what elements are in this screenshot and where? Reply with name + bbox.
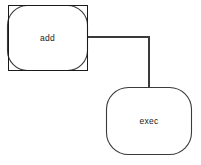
edge-add-to-exec[interactable] — [88, 37, 149, 87]
diagram-canvas[interactable]: add exec — [0, 0, 201, 165]
node-exec-label: exec — [106, 116, 192, 126]
edge-add-to-exec-path[interactable] — [88, 37, 149, 87]
node-add-label: add — [7, 33, 88, 43]
diagram-svg — [0, 0, 201, 165]
